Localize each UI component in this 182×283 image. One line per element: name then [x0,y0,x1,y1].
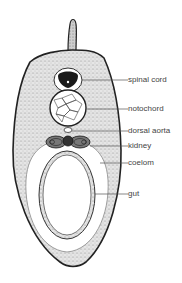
kidney [46,136,90,148]
label-spinal-cord: spinal cord [128,75,167,85]
label-kidney: kidney [128,141,151,151]
gut-lumen [43,155,91,235]
dorsal-aorta [64,128,72,133]
dorsal-fin-fold [68,20,76,53]
embryo-cross-section [0,0,182,283]
label-gut: gut [128,189,139,199]
label-dorsal-aorta: dorsal aorta [128,126,170,136]
label-notochord: notochord [128,104,164,114]
label-coelom: coelom [128,158,154,168]
